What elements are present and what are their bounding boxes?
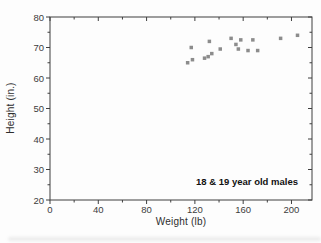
y-tick-label: 80 [33,12,44,23]
data-point [296,34,300,38]
data-point [234,43,238,47]
data-point [186,61,190,65]
x-tick-label: 160 [235,204,251,215]
y-axis-label: Height (in.) [5,48,19,168]
x-tick-label: 40 [93,204,104,215]
y-tick-label: 60 [33,73,44,84]
x-tick-label: 120 [187,204,203,215]
data-point [190,46,194,50]
data-point [237,47,241,51]
x-tick-label: 0 [47,204,52,215]
data-point [229,37,233,41]
y-tick-label: 20 [33,195,44,206]
scan-artifact [8,237,321,241]
x-axis-label: Weight (lb) [50,216,312,227]
data-point [218,47,222,51]
x-tick-label: 200 [284,204,300,215]
plot-frame [50,17,312,200]
scatter-plot: 0408012016020020304050607080 [0,0,321,243]
data-point [279,37,283,41]
data-point [210,52,214,56]
y-tick-label: 50 [33,103,44,114]
data-point [203,56,207,60]
data-point [256,49,260,53]
x-tick-label: 80 [141,204,152,215]
data-point [191,58,195,62]
data-point [251,38,255,42]
annotation-label: 18 & 19 year old males [196,176,298,187]
y-tick-label: 40 [33,134,44,145]
data-point [246,49,250,53]
scatter-figure: 0408012016020020304050607080 Weight (lb)… [0,0,321,243]
data-point [208,40,212,44]
y-tick-label: 30 [33,164,44,175]
data-point [206,55,210,59]
data-point [239,38,243,42]
y-tick-label: 70 [33,42,44,53]
